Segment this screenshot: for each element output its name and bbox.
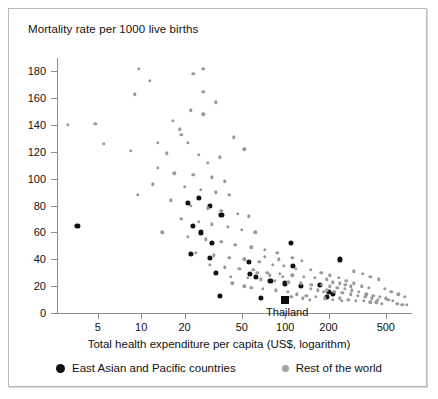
- y-tick-140: [51, 125, 57, 126]
- y-tick-0: [51, 313, 57, 314]
- legend-label-eap: East Asian and Pacific countries: [72, 362, 236, 374]
- y-tick-label-80: 80: [6, 200, 46, 212]
- y-tick-180: [51, 71, 57, 72]
- y-tick-label-120: 120: [6, 146, 46, 158]
- y-tick-60: [51, 232, 57, 233]
- legend-marker-rest-icon: [282, 365, 289, 372]
- legend-item-east-asian-pacific: East Asian and Pacific countries: [56, 362, 236, 374]
- x-tick-label-50: 50: [236, 321, 248, 333]
- legend-label-rest: Rest of the world: [296, 362, 382, 374]
- y-tick-label-160: 160: [6, 92, 46, 104]
- y-tick-label-140: 140: [6, 119, 46, 131]
- x-tick-20: [185, 313, 186, 319]
- x-tick-label-100: 100: [276, 321, 294, 333]
- y-tick-label-40: 40: [6, 253, 46, 265]
- y-tick-160: [51, 98, 57, 99]
- y-tick-20: [51, 286, 57, 287]
- x-tick-label-5: 5: [95, 321, 101, 333]
- y-tick-40: [51, 259, 57, 260]
- x-axis-title: Total health expenditure per capita (US$…: [0, 338, 438, 350]
- chart-legend: East Asian and Pacific countries Rest of…: [0, 362, 438, 374]
- x-tick-label-10: 10: [135, 321, 147, 333]
- x-axis-line: [57, 313, 412, 314]
- chart-title: Mortality rate per 1000 live births: [28, 23, 198, 35]
- legend-marker-eap-icon: [56, 364, 65, 373]
- x-tick-200: [329, 313, 330, 319]
- thailand-marker: [281, 296, 289, 304]
- thailand-label: Thailand: [266, 306, 308, 318]
- x-tick-label-500: 500: [377, 321, 395, 333]
- legend-item-rest-of-world: Rest of the world: [282, 362, 382, 374]
- y-tick-label-0: 0: [6, 307, 46, 319]
- x-tick-10: [141, 313, 142, 319]
- x-tick-50: [242, 313, 243, 319]
- x-tick-5: [98, 313, 99, 319]
- y-tick-label-180: 180: [6, 65, 46, 77]
- y-tick-120: [51, 152, 57, 153]
- chart-frame: [8, 8, 427, 387]
- y-tick-label-100: 100: [6, 173, 46, 185]
- y-axis-line: [57, 58, 58, 314]
- y-tick-label-60: 60: [6, 226, 46, 238]
- y-tick-80: [51, 206, 57, 207]
- x-tick-label-20: 20: [178, 321, 190, 333]
- x-tick-label-200: 200: [319, 321, 337, 333]
- chart-figure: Mortality rate per 1000 live births 0204…: [0, 0, 438, 399]
- x-tick-500: [386, 313, 387, 319]
- y-tick-label-20: 20: [6, 280, 46, 292]
- y-tick-100: [51, 179, 57, 180]
